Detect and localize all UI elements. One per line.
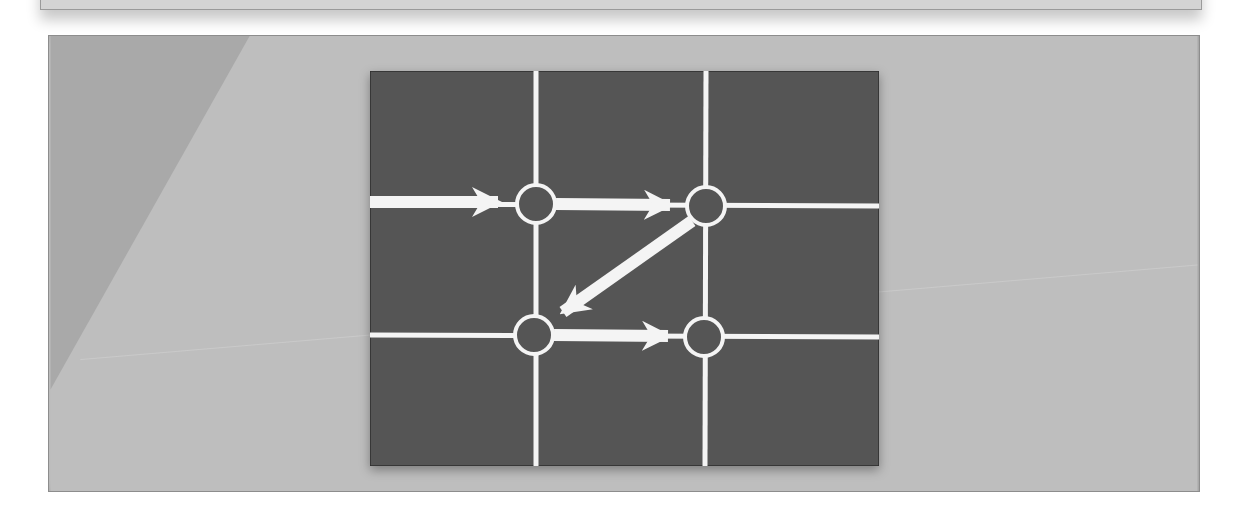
page (0, 0, 1247, 532)
node-top-right (687, 187, 725, 225)
arrow-bottom-left-to-bottom-right (554, 335, 668, 336)
grid-line-vertical-right (705, 71, 706, 466)
diagram-canvas (370, 71, 879, 466)
node-bottom-right (685, 318, 723, 356)
node-top-left (517, 185, 555, 223)
arrow-top-left-to-top-right (556, 204, 670, 205)
previous-panel-edge (40, 0, 1202, 10)
node-bottom-left (515, 316, 553, 354)
grid-path-diagram (370, 71, 879, 466)
figure-panel (48, 35, 1200, 492)
